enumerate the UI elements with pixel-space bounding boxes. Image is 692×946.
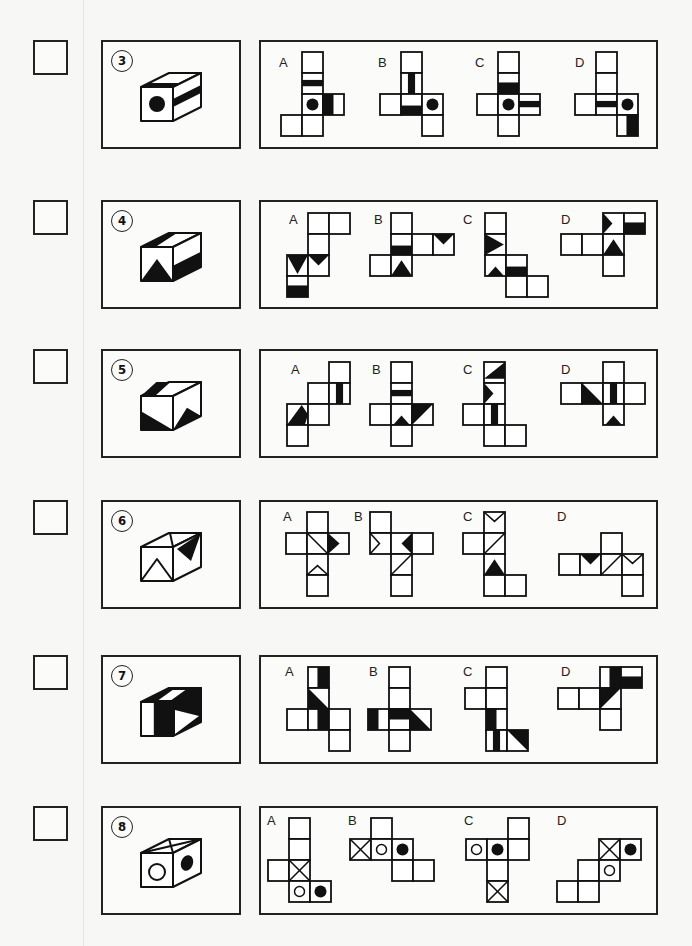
cube-net-option[interactable]	[557, 666, 643, 735]
cube-net-option[interactable]	[280, 51, 345, 141]
answer-checkbox[interactable]	[33, 40, 68, 75]
question-number: 8	[111, 816, 133, 838]
question-figure-box: 5	[101, 349, 241, 458]
answer-checkbox[interactable]	[33, 806, 68, 841]
option-label[interactable]: D	[557, 509, 566, 524]
cube-net-option[interactable]	[574, 51, 639, 141]
margin-line	[83, 0, 84, 946]
question-number: 6	[111, 510, 133, 532]
cube-net-option[interactable]	[558, 532, 644, 601]
option-label[interactable]: B	[354, 509, 363, 524]
question-figure-box: 7	[101, 655, 241, 764]
cube-net-option[interactable]	[484, 212, 549, 302]
option-label[interactable]: C	[463, 212, 472, 227]
question-number: 4	[111, 210, 133, 232]
cube-net-option[interactable]	[369, 511, 434, 601]
cube-net-option[interactable]	[465, 817, 530, 907]
cube-net-option[interactable]	[379, 51, 444, 141]
cube-net-option[interactable]	[286, 361, 351, 451]
cube-net-option[interactable]	[369, 212, 455, 281]
cube-net-option[interactable]	[369, 361, 434, 451]
cube-net-option[interactable]	[476, 51, 541, 141]
cube-net-option[interactable]	[464, 666, 529, 756]
cube-net-option[interactable]	[560, 361, 646, 430]
question-figure-box: 3	[101, 40, 241, 149]
cube-net-option[interactable]	[285, 511, 350, 601]
question-number: 7	[111, 665, 133, 687]
question-number: 3	[111, 50, 133, 72]
cube-net-option[interactable]	[367, 666, 432, 756]
cube-net-option[interactable]	[286, 666, 351, 756]
cube-net-option[interactable]	[560, 212, 646, 281]
cube-net-option[interactable]	[349, 817, 435, 886]
answer-checkbox[interactable]	[33, 655, 68, 690]
question-figure-box: 6	[101, 500, 241, 609]
question-figure-box: 8	[101, 806, 241, 915]
question-number: 5	[111, 359, 133, 381]
cube-net-option[interactable]	[462, 361, 527, 451]
option-label[interactable]: D	[557, 813, 566, 828]
question-figure-box: 4	[101, 200, 241, 309]
answer-checkbox[interactable]	[33, 500, 68, 535]
answer-checkbox[interactable]	[33, 200, 68, 235]
cube-net-option[interactable]	[556, 838, 642, 907]
cube-net-option[interactable]	[286, 212, 351, 302]
cube-net-option[interactable]	[462, 511, 527, 601]
cube-net-option[interactable]	[267, 817, 332, 907]
answer-checkbox[interactable]	[33, 349, 68, 384]
